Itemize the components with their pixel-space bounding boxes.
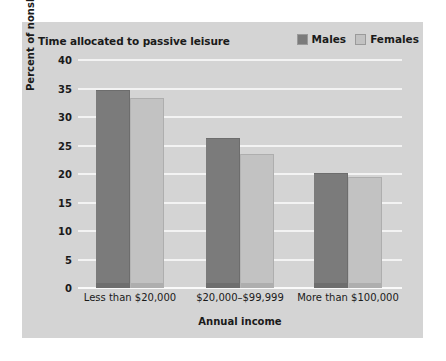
bar-base-shadow [241,283,273,288]
y-axis-title: Percent of nonsleep time [25,0,36,105]
bar-males-1 [96,90,130,288]
y-axis-tick-label: 30 [58,112,72,123]
bar-group [96,60,164,288]
y-axis-tick-label: 20 [58,169,72,180]
x-axis-tick-label: $20,000–$99,999 [196,292,284,303]
y-axis-tick-label: 25 [58,140,72,151]
legend-swatch-males [297,34,308,45]
bar-group [314,60,382,288]
legend-label-females: Females [370,33,419,45]
legend-entry-males: Males [297,33,347,45]
plot-area: 0510152025303540 [78,60,402,288]
bar-base-shadow [314,283,347,288]
x-axis-title: Annual income [78,316,402,327]
y-axis-tick-label: 35 [58,83,72,94]
legend-swatch-females [355,34,366,45]
y-axis-tick-label: 0 [65,283,72,294]
chart-legend: Males Females [297,33,419,45]
bar-group [206,60,274,288]
x-axis-tick-label: Less than $20,000 [84,292,176,303]
bar-females-1 [130,98,164,288]
bar-base-shadow [131,283,163,288]
x-axis-tick-label: More than $100,000 [297,292,399,303]
bar-base-shadow [206,283,239,288]
bar-males-2 [206,138,240,288]
legend-label-males: Males [312,33,347,45]
y-axis-tick-label: 5 [65,254,72,265]
bar-series-container [78,60,402,288]
bar-males-3 [314,173,348,288]
y-axis-tick-label: 10 [58,226,72,237]
y-axis-tick-label: 40 [58,55,72,66]
bar-females-2 [240,154,274,288]
bar-females-3 [348,177,382,288]
y-axis-tick-label: 15 [58,197,72,208]
bar-base-shadow [96,283,129,288]
x-axis-tick-labels: Less than $20,000$20,000–$99,999More tha… [78,292,402,312]
chart-figure: Time allocated to passive leisure Males … [0,0,446,361]
bar-base-shadow [349,283,381,288]
chart-title: Time allocated to passive leisure [38,35,230,47]
legend-entry-females: Females [355,33,419,45]
